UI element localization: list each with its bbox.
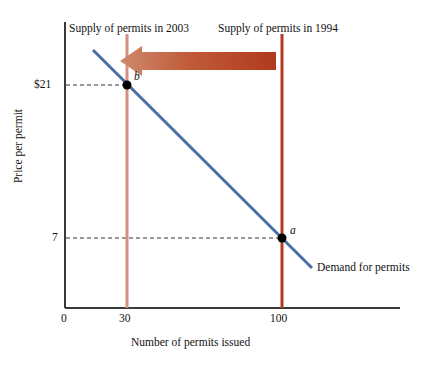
x-tick-label-0: 0: [61, 312, 67, 324]
x-tick-label-30: 30: [119, 312, 131, 324]
point-label-a: a: [290, 224, 296, 236]
chart-canvas: [0, 0, 436, 365]
y-tick-label-7: 7: [52, 231, 58, 243]
demand-label: Demand for permits: [317, 261, 410, 273]
shift-arrow-icon: [120, 46, 276, 76]
point-label-b: b: [134, 70, 140, 82]
point-marker-a: [278, 234, 287, 243]
supply-2003-label: Supply of permits in 2003: [69, 22, 189, 34]
supply-1994-label: Supply of permits in 1994: [218, 22, 338, 34]
y-axis-title: Price per permit: [12, 96, 24, 196]
supply-demand-chart: Supply of permits in 2003 Supply of perm…: [0, 0, 436, 365]
x-tick-label-100: 100: [270, 312, 287, 324]
y-tick-label-21: $21: [34, 78, 51, 90]
point-marker-b: [123, 81, 132, 90]
x-axis-title: Number of permits issued: [131, 336, 250, 348]
